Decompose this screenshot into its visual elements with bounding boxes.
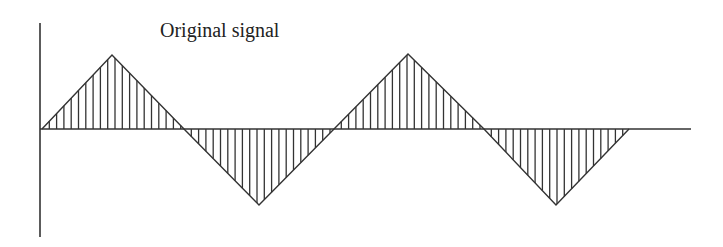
signal-diagram: [0, 0, 723, 247]
diagram-title: Original signal: [160, 20, 279, 40]
